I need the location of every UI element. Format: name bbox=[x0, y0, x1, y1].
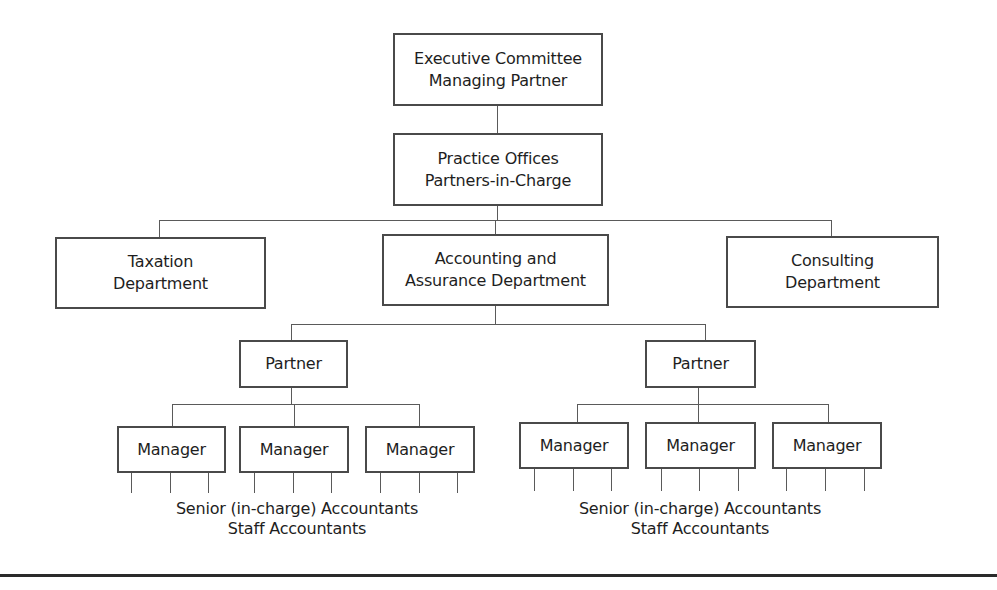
node-taxation-department: Taxation Department bbox=[55, 237, 266, 309]
node-subtitle: Department bbox=[785, 272, 880, 294]
node-manager: Manager bbox=[239, 426, 349, 473]
staff-tick bbox=[611, 469, 612, 491]
staff-label-right: Senior (in-charge) Accountants Staff Acc… bbox=[560, 499, 840, 539]
staff-tick bbox=[864, 469, 865, 491]
node-partner-left: Partner bbox=[239, 340, 348, 388]
senior-accountants-label: Senior (in-charge) Accountants bbox=[560, 499, 840, 519]
staff-label-left: Senior (in-charge) Accountants Staff Acc… bbox=[157, 499, 437, 539]
node-title: Partner bbox=[672, 353, 729, 375]
staff-tick bbox=[293, 473, 294, 493]
connector-to-taxation bbox=[159, 220, 160, 237]
staff-tick bbox=[825, 469, 826, 491]
node-manager: Manager bbox=[365, 426, 475, 473]
connector-to-manager bbox=[172, 404, 173, 426]
node-subtitle: Managing Partner bbox=[429, 70, 568, 92]
node-title: Manager bbox=[386, 439, 455, 461]
staff-tick bbox=[208, 473, 209, 493]
node-executive-committee: Executive Committee Managing Partner bbox=[393, 33, 603, 106]
node-consulting-department: Consulting Department bbox=[726, 236, 939, 308]
connector-practice-down bbox=[497, 206, 498, 220]
node-title: Manager bbox=[793, 435, 862, 457]
staff-tick bbox=[738, 469, 739, 491]
node-practice-offices: Practice Offices Partners-in-Charge bbox=[393, 133, 603, 206]
staff-tick bbox=[131, 473, 132, 493]
connector-managers-left-bus bbox=[172, 404, 420, 405]
connector-to-partner-right bbox=[705, 324, 706, 340]
staff-tick bbox=[254, 473, 255, 493]
node-title: Accounting and bbox=[435, 248, 557, 270]
connector-accounting-down bbox=[495, 306, 496, 324]
connector-partner-left-down bbox=[291, 388, 292, 404]
node-accounting-assurance-department: Accounting and Assurance Department bbox=[382, 234, 609, 306]
staff-tick bbox=[170, 473, 171, 493]
connector-to-manager bbox=[294, 404, 295, 426]
node-title: Practice Offices bbox=[437, 148, 558, 170]
connector-to-accounting bbox=[495, 220, 496, 234]
node-title: Consulting bbox=[791, 250, 874, 272]
staff-tick bbox=[331, 473, 332, 493]
connector-partners-bus bbox=[291, 324, 706, 325]
node-partner-right: Partner bbox=[645, 340, 756, 388]
senior-accountants-label: Senior (in-charge) Accountants bbox=[157, 499, 437, 519]
node-title: Manager bbox=[666, 435, 735, 457]
org-chart: Executive Committee Managing Partner Pra… bbox=[0, 0, 997, 590]
staff-tick bbox=[380, 473, 381, 493]
connector-exec-practice bbox=[497, 106, 498, 133]
node-subtitle: Assurance Department bbox=[405, 270, 586, 292]
node-manager: Manager bbox=[117, 426, 226, 473]
staff-tick bbox=[786, 469, 787, 491]
node-title: Partner bbox=[265, 353, 322, 375]
connector-managers-right-bus bbox=[577, 404, 829, 405]
node-title: Taxation bbox=[128, 251, 193, 273]
node-title: Manager bbox=[137, 439, 206, 461]
node-subtitle: Department bbox=[113, 273, 208, 295]
bottom-divider bbox=[0, 574, 997, 577]
staff-tick bbox=[419, 473, 420, 493]
staff-tick bbox=[534, 469, 535, 491]
connector-partner-right-down bbox=[698, 388, 699, 404]
node-manager: Manager bbox=[519, 422, 629, 469]
node-title: Manager bbox=[260, 439, 329, 461]
staff-tick bbox=[699, 469, 700, 491]
staff-tick bbox=[573, 469, 574, 491]
connector-to-manager bbox=[419, 404, 420, 426]
staff-accountants-label: Staff Accountants bbox=[157, 519, 437, 539]
node-title: Executive Committee bbox=[414, 48, 582, 70]
node-manager: Manager bbox=[645, 422, 756, 469]
node-manager: Manager bbox=[772, 422, 882, 469]
connector-to-partner-left bbox=[291, 324, 292, 340]
node-subtitle: Partners-in-Charge bbox=[425, 170, 571, 192]
staff-accountants-label: Staff Accountants bbox=[560, 519, 840, 539]
staff-tick bbox=[457, 473, 458, 493]
staff-tick bbox=[661, 469, 662, 491]
connector-to-consulting bbox=[831, 220, 832, 236]
node-title: Manager bbox=[540, 435, 609, 457]
